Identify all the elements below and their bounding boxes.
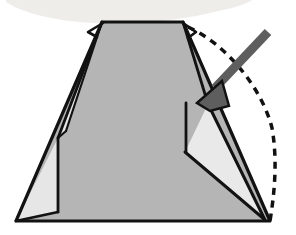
scan-smudge xyxy=(6,0,252,24)
fold-direction-arrow xyxy=(197,32,268,111)
origami-diagram-canvas: Origami step: fold right flap over to th… xyxy=(0,0,296,235)
origami-diagram-figure: Origami step: fold right flap over to th… xyxy=(0,0,296,235)
